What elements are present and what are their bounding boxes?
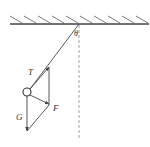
string	[30, 24, 79, 89]
force-vector	[30, 95, 49, 104]
tension-label: T	[28, 67, 34, 77]
parallelogram-side-diagonal	[27, 105, 49, 131]
ball	[23, 88, 31, 96]
pendulum-diagram: θ T F G	[0, 0, 150, 147]
force-label: F	[52, 103, 59, 113]
gravity-label: G	[16, 112, 23, 122]
ceiling	[10, 16, 149, 24]
angle-label: θ	[74, 29, 78, 38]
diagram-svg: θ T F G	[0, 0, 150, 147]
